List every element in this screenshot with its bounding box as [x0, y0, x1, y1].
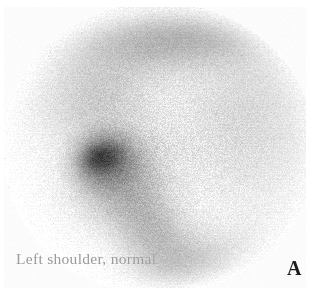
scintigraphy-figure: Left shoulder, normal A [0, 0, 319, 297]
panel-letter-label: A [287, 258, 301, 278]
scan-caption: Left shoulder, normal [16, 250, 156, 268]
